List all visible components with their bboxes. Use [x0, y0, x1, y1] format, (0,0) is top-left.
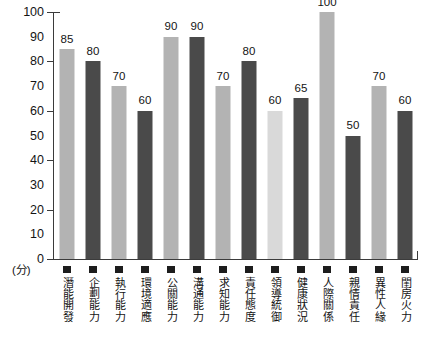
- bar-slot: 80: [236, 12, 262, 259]
- bar-value-label: 90: [165, 21, 178, 33]
- y-tick-label: 60: [30, 105, 44, 118]
- bar-value-label: 65: [295, 83, 308, 95]
- bar-value-label: 80: [243, 46, 256, 58]
- bar[interactable]: [268, 111, 283, 259]
- x-axis-label-item: 責任態度: [236, 266, 262, 322]
- bar[interactable]: [164, 37, 179, 259]
- x-axis-category-label: 閨房火力: [399, 277, 411, 322]
- bar[interactable]: [86, 61, 101, 259]
- x-axis-label-item: 異性人緣: [366, 266, 392, 322]
- x-axis-category-label: 環境適應: [139, 277, 151, 322]
- plot-area: 85807060909070806065100507060: [54, 12, 418, 259]
- x-axis-labels: 潛能開發企劃能力執行能力環境適應公關能力溝通能力求知能力責任態度領導統御健康狀況…: [54, 266, 418, 346]
- legend-square-icon: [245, 266, 253, 273]
- bar-slot: 60: [262, 12, 288, 259]
- bar[interactable]: [138, 111, 153, 259]
- legend-square-icon: [63, 266, 71, 273]
- x-axis-label-item: 健康狀況: [288, 266, 314, 322]
- x-axis-label-item: 環境適應: [132, 266, 158, 322]
- x-axis-label-item: 求知能力: [210, 266, 236, 322]
- bar-slot: 70: [106, 12, 132, 259]
- x-axis-label-item: 潛能開發: [54, 266, 80, 322]
- x-axis-label-item: 執行能力: [106, 266, 132, 322]
- x-axis-category-label: 領導統御: [269, 277, 281, 322]
- legend-square-icon: [167, 266, 175, 273]
- bar[interactable]: [242, 61, 257, 259]
- bar[interactable]: [216, 86, 231, 259]
- y-tick-label: 80: [30, 55, 44, 68]
- x-axis-label-item: 溝通能力: [184, 266, 210, 322]
- x-axis-category-label: 企劃能力: [87, 277, 99, 322]
- bar-value-label: 70: [113, 71, 126, 83]
- bar-slot: 50: [340, 12, 366, 259]
- y-tick-label: 50: [30, 129, 44, 142]
- bar[interactable]: [190, 37, 205, 259]
- x-axis-category-label: 人際關係: [321, 277, 333, 322]
- legend-square-icon: [401, 266, 409, 273]
- bar-chart: 1009080706050403020100 (分) 8580706090907…: [0, 0, 432, 346]
- y-tick-label: 20: [30, 203, 44, 216]
- bar-slot: 60: [392, 12, 418, 259]
- bar-value-label: 60: [399, 95, 412, 107]
- x-axis-category-label: 健康狀況: [295, 277, 307, 322]
- legend-square-icon: [297, 266, 305, 273]
- y-axis: 1009080706050403020100: [0, 12, 56, 260]
- x-axis-category-label: 親情責任: [347, 277, 359, 322]
- x-axis-label-item: 人際關係: [314, 266, 340, 322]
- bar-value-label: 70: [217, 71, 230, 83]
- y-tick-label: 10: [30, 228, 44, 241]
- y-axis-unit-label: (分): [12, 264, 31, 276]
- bar-value-label: 70: [373, 71, 386, 83]
- x-axis-category-label: 求知能力: [217, 277, 229, 322]
- y-tick-label: 100: [23, 6, 44, 19]
- legend-square-icon: [219, 266, 227, 273]
- y-tick-label: 70: [30, 80, 44, 93]
- x-axis-label-item: 公關能力: [158, 266, 184, 322]
- x-axis-label-item: 閨房火力: [392, 266, 418, 322]
- x-axis-category-label: 異性人緣: [373, 277, 385, 322]
- x-axis-category-label: 執行能力: [113, 277, 125, 322]
- bar-value-label: 80: [87, 46, 100, 58]
- bar-value-label: 50: [347, 120, 360, 132]
- bar-slot: 70: [210, 12, 236, 259]
- bar-value-label: 85: [61, 34, 74, 46]
- x-axis-line: [53, 259, 418, 260]
- legend-square-icon: [89, 266, 97, 273]
- x-axis-label-item: 企劃能力: [80, 266, 106, 322]
- legend-square-icon: [193, 266, 201, 273]
- x-axis-category-label: 潛能開發: [61, 277, 73, 322]
- bar[interactable]: [60, 49, 75, 259]
- x-axis-category-label: 公關能力: [165, 277, 177, 322]
- x-axis-category-label: 責任態度: [243, 277, 255, 322]
- bar[interactable]: [320, 12, 335, 259]
- bar-slot: 65: [288, 12, 314, 259]
- x-axis-category-label: 溝通能力: [191, 277, 203, 322]
- legend-square-icon: [271, 266, 279, 273]
- y-tick-label: 40: [30, 154, 44, 167]
- bar-slot: 90: [184, 12, 210, 259]
- bar[interactable]: [346, 136, 361, 260]
- bar-slot: 100: [314, 12, 340, 259]
- bar[interactable]: [294, 98, 309, 259]
- legend-square-icon: [323, 266, 331, 273]
- legend-square-icon: [349, 266, 357, 273]
- bar-slot: 60: [132, 12, 158, 259]
- y-tick-label: 0: [37, 253, 44, 266]
- legend-square-icon: [375, 266, 383, 273]
- x-axis-label-item: 領導統御: [262, 266, 288, 322]
- bar-value-label: 100: [317, 0, 336, 8]
- bar-value-label: 90: [191, 21, 204, 33]
- bar-slot: 80: [80, 12, 106, 259]
- bar[interactable]: [112, 86, 127, 259]
- bar-value-label: 60: [139, 95, 152, 107]
- bar-slot: 90: [158, 12, 184, 259]
- bar-slot: 85: [54, 12, 80, 259]
- legend-square-icon: [115, 266, 123, 273]
- y-tick-label: 90: [30, 30, 44, 43]
- bar-slot: 70: [366, 12, 392, 259]
- bar[interactable]: [398, 111, 413, 259]
- legend-square-icon: [141, 266, 149, 273]
- bar[interactable]: [372, 86, 387, 259]
- bar-value-label: 60: [269, 95, 282, 107]
- y-tick-label: 30: [30, 179, 44, 192]
